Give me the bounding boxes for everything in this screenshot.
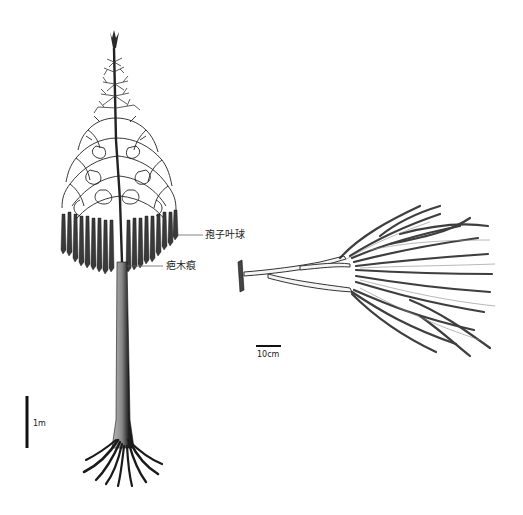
branch-detail-drawing bbox=[238, 206, 495, 356]
tree-drawing bbox=[61, 30, 203, 486]
roots bbox=[84, 440, 162, 486]
figure-canvas: 孢子叶球 疤木痕 1m 10cm bbox=[0, 0, 523, 515]
trunk bbox=[112, 262, 134, 448]
branch-base bbox=[238, 260, 244, 292]
illustration bbox=[0, 0, 523, 515]
label-leaf-scar: 疤木痕 bbox=[166, 260, 196, 272]
scale-label-10cm: 10cm bbox=[257, 350, 279, 360]
scale-label-1m: 1m bbox=[33, 419, 46, 429]
label-strobilus: 孢子叶球 bbox=[205, 229, 245, 241]
